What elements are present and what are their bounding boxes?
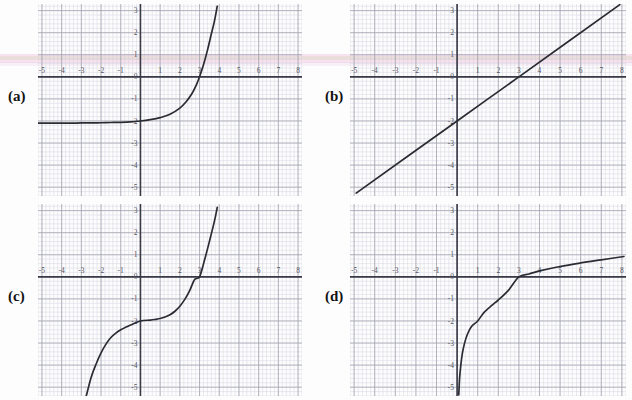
y-tick--2: -2 — [448, 317, 454, 326]
y-tick-labels-a: 3210-1-2-3-4-5 — [131, 6, 138, 192]
x-tick--3: -3 — [392, 66, 398, 75]
x-tick-5: 5 — [237, 266, 241, 275]
panel-a: -5-4-3-2-1123456783210-1-2-3-4-5 — [38, 4, 302, 196]
y-tick--3: -3 — [448, 339, 454, 348]
y-tick-2: 2 — [450, 228, 454, 237]
y-tick-3: 3 — [134, 6, 138, 15]
x-tick-8: 8 — [620, 66, 624, 75]
y-tick--5: -5 — [448, 183, 454, 192]
x-tick-8: 8 — [296, 266, 300, 275]
x-tick-5: 5 — [558, 66, 562, 75]
x-tick-8: 8 — [620, 266, 624, 275]
y-tick--4: -4 — [448, 161, 454, 170]
x-tick-6: 6 — [257, 266, 261, 275]
y-tick--3: -3 — [131, 139, 137, 148]
y-tick-3: 3 — [450, 206, 454, 215]
x-tick-1: 1 — [158, 66, 162, 75]
x-tick--1: -1 — [433, 66, 439, 75]
x-tick--5: -5 — [351, 266, 357, 275]
y-tick--3: -3 — [131, 339, 137, 348]
x-tick-2: 2 — [178, 66, 182, 75]
x-tick-6: 6 — [257, 66, 261, 75]
x-tick-1: 1 — [476, 266, 480, 275]
y-tick--5: -5 — [131, 183, 137, 192]
x-tick-5: 5 — [237, 66, 241, 75]
y-tick-0: 0 — [450, 72, 454, 81]
x-tick-labels-c: -5-4-3-2-112345678 — [39, 266, 300, 275]
x-tick--4: -4 — [372, 266, 378, 275]
y-tick-1: 1 — [450, 250, 454, 259]
y-tick-1: 1 — [450, 50, 454, 59]
x-tick--5: -5 — [351, 66, 357, 75]
y-tick--1: -1 — [131, 294, 137, 303]
y-tick-1: 1 — [134, 250, 138, 259]
x-tick--2: -2 — [98, 266, 104, 275]
x-tick-4: 4 — [217, 266, 221, 275]
plot-d: -5-4-3-2-1123456783210-1-2-3-4-5 — [350, 204, 626, 396]
figure-root: -5-4-3-2-1123456783210-1-2-3-4-5 (a) -5-… — [0, 0, 632, 400]
x-tick-6: 6 — [579, 266, 583, 275]
x-tick-2: 2 — [496, 66, 500, 75]
plot-b: -5-4-3-2-1123456783210-1-2-3-4-5 — [350, 4, 626, 196]
y-tick--4: -4 — [448, 361, 454, 370]
x-tick--3: -3 — [78, 266, 84, 275]
x-tick--3: -3 — [392, 266, 398, 275]
x-tick-7: 7 — [276, 266, 280, 275]
x-tick-7: 7 — [599, 66, 603, 75]
x-tick-8: 8 — [296, 66, 300, 75]
x-tick-3: 3 — [517, 266, 521, 275]
cubic-curve — [86, 207, 217, 396]
panel-c: -5-4-3-2-1123456783210-1-2-3-4-5 — [38, 204, 302, 396]
panel-d-label: (d) — [325, 288, 343, 305]
x-tick-4: 4 — [538, 66, 542, 75]
y-tick-2: 2 — [134, 28, 138, 37]
y-tick-labels-c: 3210-1-2-3-4-5 — [131, 206, 138, 392]
x-tick--3: -3 — [78, 66, 84, 75]
x-tick-1: 1 — [158, 266, 162, 275]
y-tick--4: -4 — [131, 361, 137, 370]
y-tick--1: -1 — [131, 94, 137, 103]
y-tick-0: 0 — [134, 272, 138, 281]
y-tick--1: -1 — [448, 294, 454, 303]
panel-b-label: (b) — [325, 88, 343, 105]
x-tick-labels-d: -5-4-3-2-112345678 — [351, 266, 624, 275]
x-tick--5: -5 — [39, 66, 45, 75]
x-tick--2: -2 — [413, 266, 419, 275]
x-tick--1: -1 — [433, 266, 439, 275]
x-tick--4: -4 — [59, 266, 65, 275]
x-tick-6: 6 — [579, 66, 583, 75]
y-tick--1: -1 — [448, 94, 454, 103]
x-tick-7: 7 — [276, 66, 280, 75]
y-tick--5: -5 — [131, 383, 137, 392]
y-tick--3: -3 — [448, 139, 454, 148]
x-tick--1: -1 — [118, 66, 124, 75]
y-tick--5: -5 — [448, 383, 454, 392]
y-tick-2: 2 — [134, 228, 138, 237]
y-tick-0: 0 — [450, 272, 454, 281]
x-tick-5: 5 — [558, 266, 562, 275]
x-tick-labels-b: -5-4-3-2-112345678 — [351, 66, 624, 75]
x-tick--4: -4 — [59, 66, 65, 75]
x-tick-3: 3 — [517, 66, 521, 75]
panel-a-label: (a) — [8, 88, 26, 105]
plot-c: -5-4-3-2-1123456783210-1-2-3-4-5 — [38, 204, 302, 396]
y-tick-3: 3 — [134, 206, 138, 215]
x-tick-7: 7 — [599, 266, 603, 275]
x-tick-2: 2 — [178, 266, 182, 275]
y-tick-2: 2 — [450, 28, 454, 37]
panel-c-label: (c) — [8, 288, 25, 305]
x-tick--2: -2 — [98, 66, 104, 75]
x-tick--5: -5 — [39, 266, 45, 275]
panel-b: -5-4-3-2-1123456783210-1-2-3-4-5 — [350, 4, 626, 196]
x-tick-4: 4 — [217, 66, 221, 75]
x-tick--4: -4 — [372, 66, 378, 75]
y-tick-0: 0 — [134, 72, 138, 81]
y-tick-3: 3 — [450, 6, 454, 15]
y-tick--4: -4 — [131, 161, 137, 170]
x-tick-labels-a: -5-4-3-2-112345678 — [39, 66, 300, 75]
x-tick--1: -1 — [118, 266, 124, 275]
plot-a: -5-4-3-2-1123456783210-1-2-3-4-5 — [38, 4, 302, 196]
x-tick-1: 1 — [476, 66, 480, 75]
x-tick-2: 2 — [496, 266, 500, 275]
x-tick--2: -2 — [413, 66, 419, 75]
